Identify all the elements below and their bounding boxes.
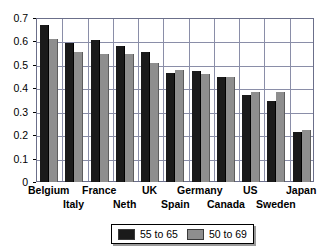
bar-group [36, 18, 61, 182]
bar-group [289, 18, 314, 182]
bar-group [112, 18, 137, 182]
bar-us-series-a [242, 95, 251, 182]
bar-germany-series-a [192, 71, 201, 182]
bar-group [162, 18, 187, 182]
y-tick-label: 0.2 [13, 130, 28, 140]
bar-spain-series-a [166, 73, 175, 182]
bar-canada-series-a [217, 77, 226, 182]
bar-canada-series-b [226, 77, 235, 182]
bar-italy-series-a [65, 43, 74, 182]
x-tick-label-neth: Neth [113, 198, 136, 210]
bar-group [238, 18, 263, 182]
bar-group [137, 18, 162, 182]
bar-chart: 0.70.60.50.40.30.20.10 BelgiumItalyFranc… [0, 0, 327, 251]
bar-france-series-b [100, 54, 109, 182]
bar-neth-series-a [116, 46, 125, 182]
bar-group [87, 18, 112, 182]
y-tick-label: 0.4 [13, 83, 28, 93]
x-tick-label-germany: Germany [177, 184, 223, 196]
y-tick-label: 0.7 [13, 13, 28, 23]
bar-japan-series-b [302, 130, 311, 182]
x-tick-label-italy: Italy [63, 198, 84, 210]
x-axis: BelgiumItalyFranceNethUKSpainGermanyCana… [0, 183, 327, 219]
legend-swatch-icon [187, 229, 204, 240]
legend-swatch-icon [118, 229, 135, 240]
bar-uk-series-a [141, 52, 150, 182]
bars-layer [36, 18, 314, 182]
x-tick-label-sweden: Sweden [256, 198, 296, 210]
bar-germany-series-b [201, 74, 210, 182]
bar-sweden-series-a [267, 101, 276, 182]
y-tick-label: 0.5 [13, 60, 28, 70]
bar-us-series-b [251, 92, 260, 182]
bar-group [263, 18, 288, 182]
bar-neth-series-b [125, 54, 134, 182]
bar-group [61, 18, 86, 182]
x-tick-label-spain: Spain [161, 198, 190, 210]
y-tick-label: 0.1 [13, 154, 28, 164]
legend-entry[interactable]: 50 to 69 [187, 229, 247, 240]
bar-belgium-series-a [40, 25, 49, 182]
x-tick-label-us: US [243, 184, 258, 196]
bar-group [188, 18, 213, 182]
bar-belgium-series-b [49, 39, 58, 182]
x-tick-label-japan: Japan [286, 184, 316, 196]
bar-spain-series-b [175, 70, 184, 182]
legend-label: 50 to 69 [209, 229, 247, 240]
x-tick-label-uk: UK [142, 184, 157, 196]
bar-italy-series-b [74, 52, 83, 182]
y-tick-label: 0.6 [13, 36, 28, 46]
x-tick-label-canada: Canada [207, 198, 245, 210]
bar-sweden-series-b [276, 92, 285, 182]
legend-label: 55 to 65 [140, 229, 178, 240]
bar-france-series-a [91, 40, 100, 182]
bar-uk-series-b [150, 63, 159, 182]
y-tick-label: 0.3 [13, 107, 28, 117]
chart-legend: 55 to 6550 to 69 [111, 224, 254, 244]
bar-japan-series-a [293, 132, 302, 182]
bar-group [213, 18, 238, 182]
x-tick-label-france: France [82, 184, 116, 196]
legend-entry[interactable]: 55 to 65 [118, 229, 178, 240]
x-tick-label-belgium: Belgium [28, 184, 69, 196]
